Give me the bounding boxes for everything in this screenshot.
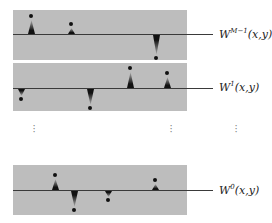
spike-dot-icon — [69, 22, 73, 26]
baseline-axis-top — [13, 34, 213, 35]
spike-dot-icon — [165, 71, 169, 75]
label-args: (x,y) — [235, 184, 260, 197]
label-layer-middle: W1(x,y) — [219, 80, 259, 94]
spike-dot-icon — [72, 208, 76, 212]
vertical-ellipsis-icon: ··· — [32, 124, 36, 133]
label-args: (x,y) — [235, 81, 260, 94]
layer-panel-top — [13, 10, 187, 60]
spike-dot-icon — [53, 173, 57, 177]
spike-dot-icon — [29, 14, 33, 18]
vertical-ellipsis-icon: ··· — [169, 124, 173, 133]
spike-dot-icon — [153, 178, 157, 182]
label-base: W — [219, 28, 230, 41]
spike-dot-icon — [128, 66, 132, 70]
vertical-ellipsis-icon: ··· — [234, 124, 238, 133]
spike-dot-icon — [19, 97, 23, 101]
spike-dot-icon — [88, 106, 92, 110]
label-superscript: M−1 — [230, 27, 248, 35]
label-layer-bottom: W0(x,y) — [219, 183, 259, 197]
spike-dot-icon — [154, 56, 158, 60]
label-args: (x,y) — [248, 28, 272, 41]
baseline-axis-middle — [13, 88, 213, 89]
label-layer-top: WM−1(x,y) — [219, 27, 272, 41]
layer-panel-middle — [13, 63, 187, 111]
spike-dot-icon — [106, 198, 110, 202]
baseline-axis-bottom — [13, 190, 213, 191]
label-base: W — [219, 184, 230, 197]
label-base: W — [219, 81, 230, 94]
